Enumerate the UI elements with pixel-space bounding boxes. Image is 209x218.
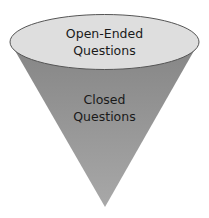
body-label-line-2: Questions [0,108,209,125]
top-label: Open-Ended Questions [0,25,209,59]
body-label-line-1: Closed [0,91,209,108]
top-label-line-2: Questions [0,42,209,59]
body-label: Closed Questions [0,91,209,125]
top-label-line-1: Open-Ended [0,25,209,42]
